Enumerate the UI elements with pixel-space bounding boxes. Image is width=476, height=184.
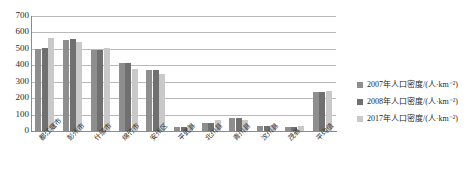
- x-tick-mark: [184, 131, 185, 134]
- legend-swatch-icon: [357, 99, 363, 105]
- legend-label: 2008年人口密度/(人·km⁻²): [367, 97, 458, 106]
- legend-label: 2007年人口密度/(人·km⁻²): [367, 80, 458, 89]
- y-tick-label: 0: [1, 126, 29, 135]
- x-tick-mark: [322, 131, 323, 134]
- y-tick-label: 400: [1, 60, 29, 69]
- bar: [313, 92, 319, 131]
- bar-group: [285, 16, 304, 131]
- y-tick-label: 100: [1, 110, 29, 119]
- bar: [146, 70, 152, 131]
- y-tick-label: 600: [1, 27, 29, 36]
- bar-group: [202, 16, 221, 131]
- bar: [70, 39, 76, 131]
- bar: [153, 70, 159, 131]
- y-tick-label: 500: [1, 44, 29, 53]
- population-density-bar-chart: 7006005004003002001000 都江堰市彭州市什邡市绵竹市安州区平…: [0, 0, 476, 184]
- bar: [91, 50, 97, 131]
- legend-swatch-icon: [357, 82, 363, 88]
- x-tick-mark: [100, 131, 101, 134]
- bar-group: [257, 16, 276, 131]
- x-tick-mark: [128, 131, 129, 134]
- bar: [319, 92, 325, 131]
- bar-group: [174, 16, 193, 131]
- x-tick-mark: [239, 131, 240, 134]
- bar: [119, 63, 125, 131]
- bar-group: [119, 16, 138, 131]
- bar: [48, 38, 54, 131]
- x-tick-mark: [294, 131, 295, 134]
- legend-label: 2017年人口密度/(人·km⁻²): [367, 114, 458, 123]
- legend-item[interactable]: 2008年人口密度/(人·km⁻²): [357, 93, 476, 110]
- bar: [104, 48, 110, 131]
- y-tick-label: 700: [1, 11, 29, 20]
- bar-group: [63, 16, 82, 131]
- x-tick-mark: [45, 131, 46, 134]
- bar: [63, 40, 69, 131]
- x-tick-mark: [156, 131, 157, 134]
- y-tick-label: 200: [1, 93, 29, 102]
- bar: [35, 49, 41, 131]
- bar-group: [91, 16, 110, 131]
- bar: [125, 63, 131, 131]
- bar: [76, 42, 82, 131]
- y-axis-tick-labels: 7006005004003002001000: [0, 16, 29, 132]
- x-tick-mark: [211, 131, 212, 134]
- plot-area: [31, 16, 336, 131]
- bar: [97, 50, 103, 131]
- x-tick-mark: [267, 131, 268, 134]
- x-tick-mark: [73, 131, 74, 134]
- chart-legend: 2007年人口密度/(人·km⁻²)2008年人口密度/(人·km⁻²)2017…: [357, 76, 476, 127]
- bar-group: [146, 16, 165, 131]
- bar-group: [313, 16, 332, 131]
- legend-item[interactable]: 2017年人口密度/(人·km⁻²): [357, 110, 476, 127]
- bar: [42, 48, 48, 131]
- bar-group: [229, 16, 248, 131]
- y-tick-label: 300: [1, 77, 29, 86]
- legend-item[interactable]: 2007年人口密度/(人·km⁻²): [357, 76, 476, 93]
- bar: [202, 123, 208, 131]
- y-axis-line: [31, 16, 32, 132]
- bar-group: [35, 16, 54, 131]
- legend-swatch-icon: [357, 116, 363, 122]
- bar: [229, 118, 235, 131]
